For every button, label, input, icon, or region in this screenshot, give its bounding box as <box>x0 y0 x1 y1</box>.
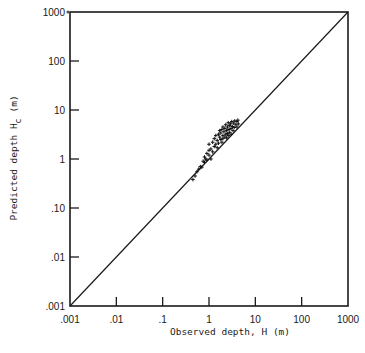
y-axis-ticks: .001.01.101101001000 <box>43 7 79 312</box>
y-tick-label: .001 <box>46 301 66 312</box>
data-point <box>207 142 211 146</box>
x-tick-label: 1000 <box>337 314 360 325</box>
data-points <box>191 118 240 181</box>
x-axis-ticks: .001.01.11101001000 <box>60 297 359 325</box>
y-tick-label: .10 <box>51 203 65 214</box>
y-tick-label: 1 <box>59 154 65 165</box>
y-tick-label: .01 <box>51 252 65 263</box>
x-tick-label: 100 <box>293 314 310 325</box>
x-tick-label: 1 <box>206 314 212 325</box>
x-tick-label: .1 <box>158 314 167 325</box>
x-tick-label: 10 <box>250 314 262 325</box>
x-tick-label: .01 <box>109 314 123 325</box>
y-tick-label: 100 <box>48 56 65 67</box>
data-point <box>211 140 215 144</box>
y-axis-title-sub: c <box>14 118 23 123</box>
data-point <box>191 178 195 182</box>
x-tick-label: .001 <box>60 314 80 325</box>
scatter-chart: .001.01.11101001000 .001.01.101101001000… <box>0 0 365 353</box>
one-to-one-line <box>70 12 348 306</box>
y-axis-title-main: Predicted depth H <box>8 123 19 221</box>
y-axis-title: Predicted depth Hc(m) <box>8 95 23 220</box>
y-tick-label: 1000 <box>43 7 66 18</box>
y-axis-title-unit: (m) <box>8 95 19 112</box>
y-tick-label: 10 <box>54 105 66 116</box>
x-axis-title: Observed depth, H (m) <box>170 326 290 337</box>
plot-frame <box>66 10 348 306</box>
